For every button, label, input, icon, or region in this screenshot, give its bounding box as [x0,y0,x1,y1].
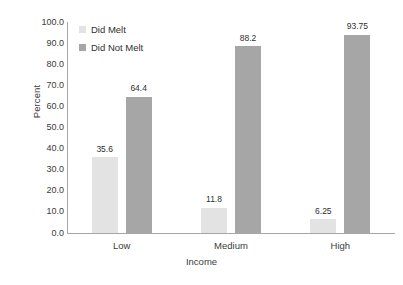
legend-item-did-not-melt[interactable]: Did Not Melt [79,39,143,55]
legend-swatch-icon [79,44,86,51]
y-axis-tick-label: 30.0 [24,165,64,174]
x-axis-category-low: Low [72,240,172,251]
legend-item-did-melt[interactable]: Did Melt [79,21,143,37]
y-axis-tick-label: 60.0 [24,102,64,111]
bar-value-label: 93.75 [336,22,378,31]
bar-high-did-melt [310,219,336,232]
x-axis-category-medium: Medium [181,240,281,251]
y-axis-tick-labels: 100.090.080.070.060.050.040.030.020.010.… [22,0,64,285]
bar-chart: Percent 100.090.080.070.060.050.040.030.… [0,0,403,285]
y-axis-tick-label: 90.0 [24,39,64,48]
y-axis-tick-label: 50.0 [24,123,64,132]
x-axis-line [67,233,395,235]
y-axis-tick-label: 100.0 [24,18,64,27]
bar-high-did-not-melt [344,35,370,233]
legend-swatch-icon [79,26,86,33]
legend-label: Did Melt [91,24,126,35]
y-axis-tick-label: 0.0 [24,229,64,238]
y-axis-tick-label: 70.0 [24,81,64,90]
x-axis-title: Income [0,256,403,267]
legend-label: Did Not Melt [91,42,143,53]
y-axis-tick-label: 20.0 [24,186,64,195]
chart-legend: Did MeltDid Not Melt [79,21,143,57]
x-axis-category-high: High [290,240,390,251]
y-axis-tick-label: 10.0 [24,207,64,216]
y-axis-tick-label: 80.0 [24,60,64,69]
bar-value-label: 6.25 [302,207,344,216]
y-axis-tick-label: 40.0 [24,144,64,153]
